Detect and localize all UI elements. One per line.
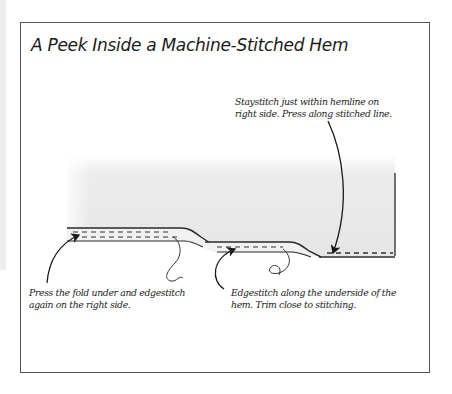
arrow-edgestitch xyxy=(215,249,235,289)
callout-line: hem. Trim close to stitching. xyxy=(231,299,396,311)
page-margin-strip xyxy=(0,0,6,270)
callout-press-fold: Press the fold under and edgestitch agai… xyxy=(29,287,185,311)
hem-illustration xyxy=(21,23,431,374)
callout-line: Press the fold under and edgestitch xyxy=(29,287,185,299)
callout-line: right side. Press along stitched line. xyxy=(235,108,392,120)
callout-line: again on the right side. xyxy=(29,299,185,311)
callout-staystitch: Staystitch just within hemline on right … xyxy=(235,96,392,120)
callout-line: Edgestitch along the underside of the xyxy=(231,287,396,299)
diagram-frame: A Peek Inside a Machine-Stitched Hem xyxy=(20,22,430,373)
thread-tail-left xyxy=(167,237,183,281)
thread-tail-middle xyxy=(269,249,289,275)
callout-edgestitch: Edgestitch along the underside of the he… xyxy=(231,287,396,311)
callout-line: Staystitch just within hemline on xyxy=(235,96,392,108)
